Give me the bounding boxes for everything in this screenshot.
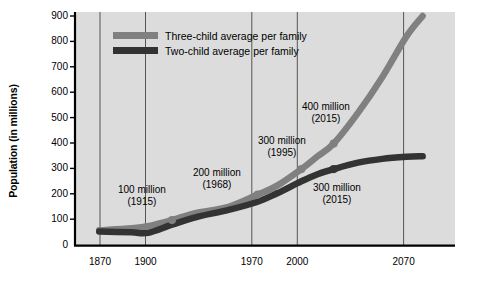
legend-swatch-two-child [113,47,158,54]
population-growth-chart: Population (in millions) 900 800 700 600… [0,0,485,282]
annotation-400-million-year: (2015) [302,113,350,125]
legend-item-three-child: Three-child average per family [113,28,307,43]
legend: Three-child average per family Two-child… [113,28,307,58]
annotation-100-million-value: 100 million [118,184,166,196]
annotation-300-million-2015-value: 300 million [313,182,361,194]
legend-label-three-child: Three-child average per family [165,30,307,42]
annotation-200-million-value: 200 million [193,167,241,179]
annotation-100-million: 100 million (1915) [118,184,166,207]
annotation-300-million-1995-year: (1995) [258,147,306,159]
legend-item-two-child: Two-child average per family [113,43,307,58]
annotation-200-million-year: (1968) [193,179,241,191]
data-point-marker [330,165,338,173]
annotation-300-million-2015: 300 million (2015) [313,182,361,205]
annotation-300-million-2015-year: (2015) [313,194,361,206]
data-point-marker [330,139,338,147]
annotation-200-million: 200 million (1968) [193,167,241,190]
annotation-300-million-1995: 300 million (1995) [258,135,306,158]
annotation-400-million: 400 million (2015) [302,101,350,124]
annotation-300-million-1995-value: 300 million [258,135,306,147]
annotation-100-million-year: (1915) [118,196,166,208]
legend-label-two-child: Two-child average per family [165,45,299,57]
data-point-marker [168,216,176,224]
legend-swatch-three-child [113,32,158,39]
annotation-400-million-value: 400 million [302,101,350,113]
data-point-marker [297,165,305,173]
data-point-marker [254,190,262,198]
